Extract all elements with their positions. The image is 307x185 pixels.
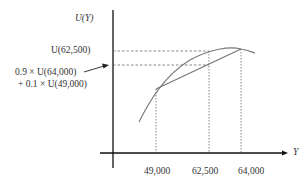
utility-curve [139,48,255,122]
x-tick-62500: 62,500 [192,166,218,176]
label-u62500: U(62,500) [51,45,90,55]
x-tick-49000: 49,000 [144,166,170,176]
label-weighted-line1: 0.9 × U(64,000) [15,67,76,77]
x-axis-label: Y [293,147,298,157]
annotation-arrow [84,66,104,72]
annotation-arrow-head-icon [102,64,109,69]
y-axis-label: U(Y) [75,13,93,23]
chord-line [156,49,241,89]
x-tick-64000: 64,000 [238,166,264,176]
utility-diagram [0,0,307,185]
x-axis-arrow-icon [282,151,288,156]
label-weighted-line2: + 0.1 × U(49,000) [18,79,87,89]
